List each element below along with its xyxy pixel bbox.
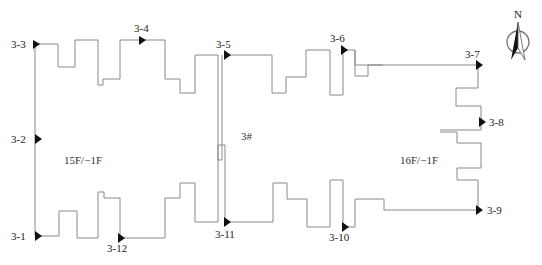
label-3-10: 3-10 (329, 231, 350, 243)
label-3-11: 3-11 (215, 228, 235, 240)
outline-top-left (35, 40, 222, 160)
label-3-6: 3-6 (330, 32, 345, 44)
compass-label: N (514, 8, 522, 20)
marker-3-11[interactable] (224, 217, 231, 227)
marker-3-8[interactable] (479, 117, 486, 127)
label-3-7: 3-7 (465, 48, 480, 60)
outline-bottom-right (225, 132, 481, 227)
marker-3-2[interactable] (35, 134, 42, 144)
building-label-center: 3# (241, 130, 253, 142)
marker-3-4[interactable] (139, 36, 146, 45)
marker-3-7[interactable] (476, 60, 483, 70)
outline-top-right (225, 50, 481, 130)
marker-3-9[interactable] (476, 205, 483, 215)
building-label-right: 16F/−1F (400, 154, 438, 166)
building-label-left: 15F/−1F (64, 154, 102, 166)
label-3-1: 3-1 (11, 230, 26, 242)
marker-3-5[interactable] (224, 50, 231, 60)
label-3-5: 3-5 (216, 38, 231, 50)
label-3-2: 3-2 (11, 133, 26, 145)
marker-3-6[interactable] (341, 45, 348, 55)
marker-3-1[interactable] (35, 231, 42, 241)
label-3-3: 3-3 (11, 38, 26, 50)
label-3-9: 3-9 (487, 204, 502, 216)
north-arrow-icon: N (507, 8, 529, 60)
marker-3-3[interactable] (33, 40, 40, 49)
label-3-12: 3-12 (107, 242, 127, 254)
building-outline-diagram: 3-1 3-2 3-3 3-4 3-5 3-6 3-7 3-8 3-9 3-10… (0, 0, 542, 265)
label-3-4: 3-4 (134, 22, 149, 34)
label-3-8: 3-8 (489, 116, 504, 128)
